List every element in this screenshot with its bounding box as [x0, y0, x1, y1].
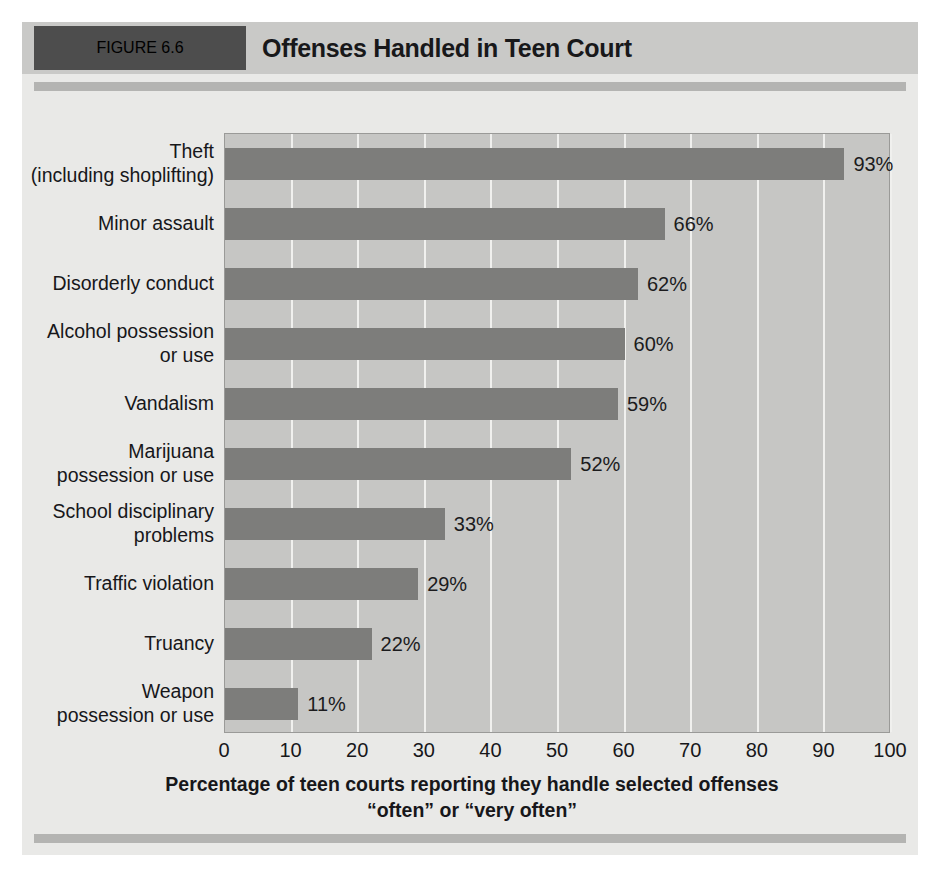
bar[interactable]: [225, 148, 844, 180]
bar-row: 93%: [225, 134, 889, 194]
category-label: Vandalism: [22, 373, 214, 433]
category-label-line: Disorderly conduct: [53, 271, 214, 295]
category-label: Truancy: [22, 613, 214, 673]
x-tick-label: 50: [546, 739, 568, 762]
category-label-line: or use: [160, 343, 214, 367]
footer-divider: [34, 834, 906, 843]
bar-value-label: 93%: [844, 148, 893, 180]
bar-row: 60%: [225, 314, 889, 374]
bar[interactable]: [225, 268, 638, 300]
x-tick-label: 90: [812, 739, 834, 762]
bar[interactable]: [225, 448, 571, 480]
category-label-line: School disciplinary: [53, 499, 215, 523]
bar-row: 59%: [225, 374, 889, 434]
bar-row: 66%: [225, 194, 889, 254]
x-tick-label: 60: [612, 739, 634, 762]
bar-value-label: 59%: [618, 388, 667, 420]
bar-row: 11%: [225, 674, 889, 734]
category-axis-labels: Theft(including shoplifting)Minor assaul…: [22, 133, 214, 733]
figure-title: Offenses Handled in Teen Court: [262, 22, 632, 74]
x-tick-label: 40: [479, 739, 501, 762]
bar-value-label: 22%: [372, 628, 421, 660]
x-axis-tick-labels: 0102030405060708090100: [224, 739, 890, 769]
figure-container: FIGURE 6.6 Offenses Handled in Teen Cour…: [22, 22, 918, 855]
category-label-line: Minor assault: [98, 211, 214, 235]
figure-header: FIGURE 6.6 Offenses Handled in Teen Cour…: [22, 22, 918, 74]
header-divider: [34, 82, 906, 91]
bar-value-label: 52%: [571, 448, 620, 480]
x-tick-label: 70: [679, 739, 701, 762]
x-axis-title-line: Percentage of teen courts reporting they…: [62, 771, 882, 797]
category-label-line: Weapon: [142, 679, 214, 703]
bar[interactable]: [225, 328, 625, 360]
x-tick-label: 30: [413, 739, 435, 762]
bar[interactable]: [225, 688, 298, 720]
figure-number-badge: FIGURE 6.6: [34, 26, 246, 70]
category-label-line: problems: [134, 523, 214, 547]
x-tick-label: 20: [346, 739, 368, 762]
category-label-line: Truancy: [144, 631, 214, 655]
bar-value-label: 60%: [625, 328, 674, 360]
category-label-line: Traffic violation: [84, 571, 214, 595]
category-label: Alcohol possessionor use: [22, 313, 214, 373]
bar-row: 62%: [225, 254, 889, 314]
bar-value-label: 11%: [298, 688, 346, 720]
bar-row: 33%: [225, 494, 889, 554]
x-tick-label: 100: [873, 739, 906, 762]
category-label: Weaponpossession or use: [22, 673, 214, 733]
bar-value-label: 29%: [418, 568, 467, 600]
category-label-line: possession or use: [57, 703, 214, 727]
category-label: School disciplinaryproblems: [22, 493, 214, 553]
bar[interactable]: [225, 568, 418, 600]
x-tick-label: 10: [279, 739, 301, 762]
bar-row: 22%: [225, 614, 889, 674]
bar-chart: Theft(including shoplifting)Minor assaul…: [22, 91, 918, 834]
category-label-line: Vandalism: [124, 391, 214, 415]
bar[interactable]: [225, 388, 618, 420]
category-label-line: Marijuana: [128, 439, 214, 463]
bar-row: 29%: [225, 554, 889, 614]
bar-value-label: 62%: [638, 268, 687, 300]
category-label: Theft(including shoplifting): [22, 133, 214, 193]
x-axis-title: Percentage of teen courts reporting they…: [62, 771, 882, 823]
figure-number-label: FIGURE 6.6: [96, 39, 183, 57]
category-label: Disorderly conduct: [22, 253, 214, 313]
category-label-line: Theft: [170, 139, 214, 163]
category-label: Minor assault: [22, 193, 214, 253]
category-label-line: (including shoplifting): [31, 163, 214, 187]
gridline: [890, 134, 892, 732]
bar[interactable]: [225, 208, 665, 240]
bar-value-label: 66%: [665, 208, 714, 240]
bar[interactable]: [225, 628, 372, 660]
bar[interactable]: [225, 508, 445, 540]
plot-area: 93%66%62%60%59%52%33%29%22%11%: [224, 133, 890, 733]
x-tick-label: 0: [218, 739, 229, 762]
x-tick-label: 80: [746, 739, 768, 762]
category-label: Traffic violation: [22, 553, 214, 613]
x-axis-title-line: “often” or “very often”: [62, 797, 882, 823]
category-label-line: Alcohol possession: [47, 319, 214, 343]
category-label-line: possession or use: [57, 463, 214, 487]
bar-row: 52%: [225, 434, 889, 494]
category-label: Marijuanapossession or use: [22, 433, 214, 493]
bar-value-label: 33%: [445, 508, 494, 540]
